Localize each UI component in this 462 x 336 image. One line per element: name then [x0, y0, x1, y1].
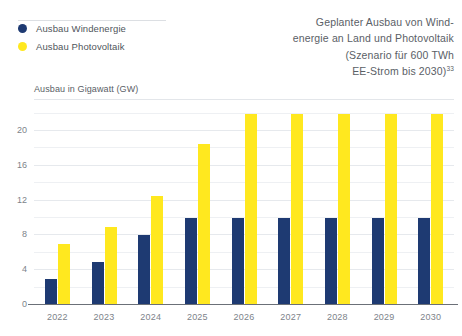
- x-axis-baseline: [28, 304, 458, 306]
- bar-pv[interactable]: [58, 244, 70, 305]
- bar-wind[interactable]: [185, 218, 197, 305]
- x-axis-tick-label: 2023: [81, 312, 128, 322]
- legend-label-pv: Ausbau Photovoltaik: [36, 42, 125, 52]
- x-axis-tick-label: 2029: [361, 312, 408, 322]
- bar-group: [127, 105, 174, 305]
- x-axis-tick-label: 2026: [221, 312, 268, 322]
- legend-dot-pv-icon: [18, 42, 27, 51]
- bar-wind[interactable]: [232, 218, 244, 305]
- bar-wind[interactable]: [418, 218, 430, 305]
- y-axis-tick-label: 8: [22, 229, 27, 239]
- bar-wind[interactable]: [92, 262, 104, 305]
- x-axis-tick-label: 2028: [314, 312, 361, 322]
- legend-dot-wind-icon: [18, 24, 27, 33]
- plot-area: 048121620: [34, 105, 454, 305]
- legend-item-wind[interactable]: Ausbau Windenergie: [18, 24, 126, 34]
- bar-wind[interactable]: [138, 235, 150, 305]
- bar-groups: [34, 105, 454, 305]
- x-axis-tick-label: 2024: [127, 312, 174, 322]
- y-axis-tick-label: 20: [17, 125, 27, 135]
- bar-wind[interactable]: [278, 218, 290, 305]
- y-axis-tick-label: 16: [17, 160, 27, 170]
- chart-title-line-4: EE-Strom bis 2030): [352, 65, 446, 77]
- bar-group: [267, 105, 314, 305]
- y-axis-tick-label: 12: [17, 195, 27, 205]
- y-axis-title: Ausbau in Gigawatt (GW): [34, 84, 138, 94]
- bar-group: [34, 105, 81, 305]
- bar-pv[interactable]: [338, 114, 350, 305]
- legend-label-wind: Ausbau Windenergie: [36, 24, 126, 34]
- y-axis-tick-label: 0: [22, 299, 27, 309]
- bar-pv[interactable]: [198, 144, 210, 305]
- x-axis-tick-label: 2022: [34, 312, 81, 322]
- x-axis-tick-label: 2030: [407, 312, 454, 322]
- axis-title-divider: [34, 99, 454, 100]
- bar-pv[interactable]: [245, 114, 257, 305]
- x-axis-tick-label: 2027: [267, 312, 314, 322]
- y-axis-tick-label: 4: [22, 264, 27, 274]
- x-axis-labels: 202220232024202520262027202820292030: [34, 312, 454, 322]
- bar-wind[interactable]: [325, 218, 337, 305]
- bar-group: [407, 105, 454, 305]
- bar-pv[interactable]: [151, 196, 163, 305]
- bar-group: [314, 105, 361, 305]
- chart-title-footnote: 33: [446, 64, 454, 71]
- bar-pv[interactable]: [105, 227, 117, 305]
- bar-wind[interactable]: [372, 218, 384, 305]
- legend-divider: [18, 20, 166, 21]
- legend-item-pv[interactable]: Ausbau Photovoltaik: [18, 42, 126, 52]
- x-axis-tick-label: 2025: [174, 312, 221, 322]
- bar-pv[interactable]: [385, 114, 397, 305]
- bar-wind[interactable]: [45, 279, 57, 305]
- bar-group: [221, 105, 268, 305]
- chart-title-line-1: Geplanter Ausbau von Wind-: [316, 16, 454, 28]
- chart-title-line-2: energie an Land und Photovoltaik: [293, 32, 454, 44]
- chart-legend: Ausbau Windenergie Ausbau Photovoltaik: [18, 24, 126, 59]
- bar-group: [174, 105, 221, 305]
- chart-title-line-3: (Szenario für 600 TWh: [345, 49, 454, 61]
- bar-group: [81, 105, 128, 305]
- bar-pv[interactable]: [431, 114, 443, 305]
- bar-pv[interactable]: [291, 114, 303, 305]
- chart-title: Geplanter Ausbau von Wind- energie an La…: [254, 14, 454, 79]
- bar-group: [361, 105, 408, 305]
